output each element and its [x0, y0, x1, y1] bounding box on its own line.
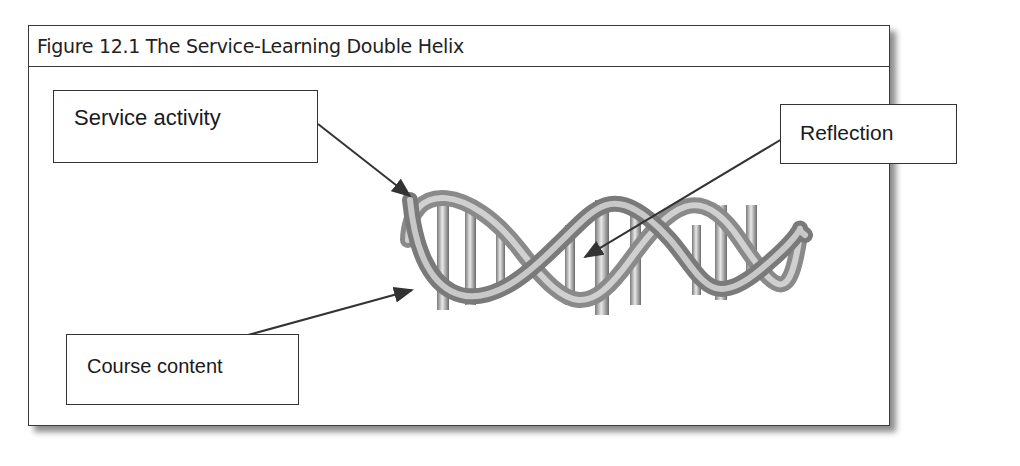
label-course-content-text: Course content	[87, 355, 223, 378]
label-course-content: Course content	[66, 334, 299, 405]
label-service-activity: Service activity	[53, 90, 318, 163]
label-reflection: Reflection	[780, 104, 957, 164]
label-reflection-text: Reflection	[800, 121, 893, 145]
label-service-activity-text: Service activity	[74, 105, 221, 131]
arrow-course-content	[248, 290, 412, 335]
arrow-service-activity	[318, 124, 410, 196]
